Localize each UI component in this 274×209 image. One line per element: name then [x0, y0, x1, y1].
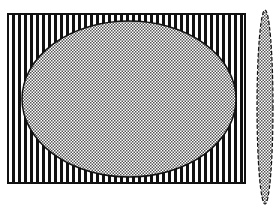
dotted-inner-ellipse: [22, 21, 236, 177]
illustration-canvas: [0, 0, 274, 209]
dotted-side-ellipse: [257, 10, 273, 204]
shapes-illustration: [0, 0, 274, 209]
